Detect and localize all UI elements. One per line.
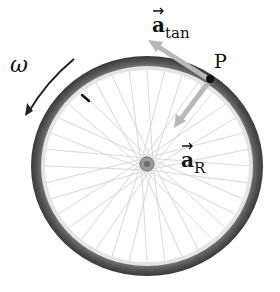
wheel-diagram	[0, 0, 280, 292]
omega-label: ω	[10, 54, 28, 76]
bicycle-wheel	[31, 56, 263, 276]
point-p-icon	[206, 75, 214, 83]
a-tan-label: atan	[152, 15, 190, 35]
a-r-main: a	[181, 148, 194, 172]
a-tan-sub: tan	[165, 24, 190, 42]
a-tan-main: a	[152, 13, 165, 37]
point-p-label: P	[214, 52, 227, 71]
a-r-sub: R	[194, 159, 205, 177]
a-r-label: aR	[181, 150, 205, 170]
